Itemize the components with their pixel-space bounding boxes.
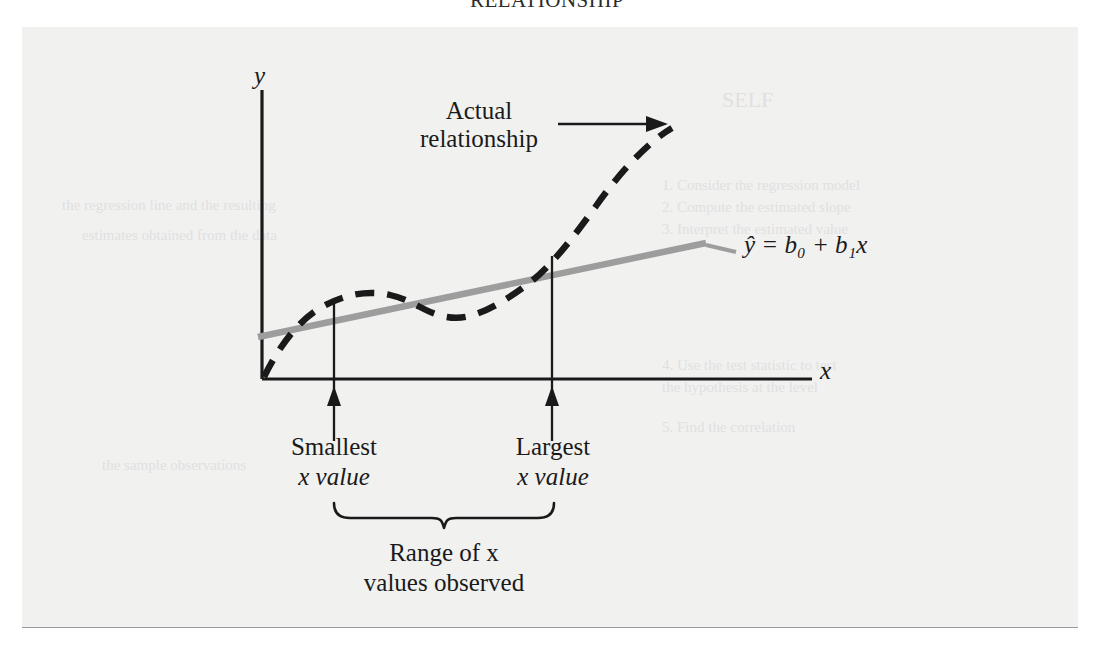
- figure-page: RELATIONSHIP the regression line and the…: [0, 0, 1094, 648]
- range-brace: [334, 503, 554, 528]
- regression-line: [258, 243, 706, 337]
- largest-x-label-line2: x value: [486, 462, 620, 492]
- largest-x-marker: [545, 256, 559, 441]
- range-label-line1: Range of x: [344, 538, 544, 568]
- actual-relationship-arrow: [558, 116, 668, 132]
- actual-relationship-label-line1: Actual: [404, 96, 554, 126]
- regression-equation-label: ŷ = b₀ + b₁x: [744, 230, 867, 260]
- smallest-x-label-line2: x value: [262, 462, 406, 492]
- actual-relationship-curve: [264, 128, 672, 377]
- y-axis-label: y: [254, 61, 265, 91]
- equation-leader-line: [706, 245, 736, 252]
- x-axis-label: x: [820, 356, 831, 386]
- actual-relationship-label-line2: relationship: [394, 124, 564, 154]
- smallest-x-label-line1: Smallest: [262, 432, 406, 462]
- largest-x-label-line1: Largest: [486, 432, 620, 462]
- range-label-line2: values observed: [334, 568, 554, 598]
